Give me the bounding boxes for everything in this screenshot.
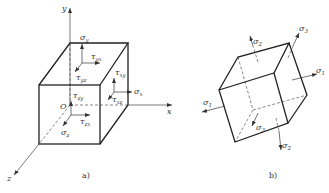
figure-a: y x z O σy τyx τyz τxy σx τxz τzy τzx σz… (6, 4, 172, 183)
cube-front-face (39, 85, 100, 144)
z-axis-label: z (6, 174, 12, 183)
sigma-z-arrow (63, 115, 71, 126)
tau-xy-label: τxy (115, 68, 127, 79)
sigma-x-label: σx (134, 87, 143, 97)
sigma-z-label: σz (61, 128, 69, 138)
figure-a-caption: a) (82, 171, 90, 180)
z-axis (14, 144, 39, 175)
sigma-2-top-label: σ2 (253, 37, 262, 47)
sigma-1-right-arrow (292, 74, 317, 80)
sigma-3-bottom-label: σ3 (256, 123, 265, 133)
tau-yz-arrow (75, 63, 82, 72)
x-axis-label: x (167, 107, 172, 116)
tau-zy-label: τzy (73, 91, 84, 102)
stress-element-diagram: y x z O σy τyx τyz τxy σx τxz τzy τzx σz… (0, 0, 329, 193)
cube-b-front-face (219, 73, 288, 142)
figure-b: σ2 σ3 σ1 σ1 σ3 σ2 b) (202, 24, 325, 180)
origin-label: O (60, 102, 67, 111)
sigma-2-bottom-label: σ2 (282, 141, 291, 151)
tau-zx-label: τzx (80, 117, 91, 127)
sigma-1-right-label: σ1 (316, 66, 325, 76)
sigma-1-left-label: σ1 (203, 98, 212, 108)
cube-a (39, 43, 128, 144)
cube-right-face (100, 43, 128, 144)
cube-b-right-face (288, 43, 307, 123)
sigma-3-top-arrow (293, 33, 299, 46)
tau-yx-label: τyx (91, 52, 103, 63)
y-axis-label: y (61, 4, 67, 13)
coordinate-axes (14, 8, 172, 175)
sigma-3-top-label: σ3 (299, 24, 308, 34)
tau-yz-label: τyz (76, 73, 87, 84)
figure-b-caption: b) (269, 171, 277, 180)
tau-xz-label: τxz (112, 95, 123, 105)
sigma-2-bottom-arrow (279, 131, 281, 150)
